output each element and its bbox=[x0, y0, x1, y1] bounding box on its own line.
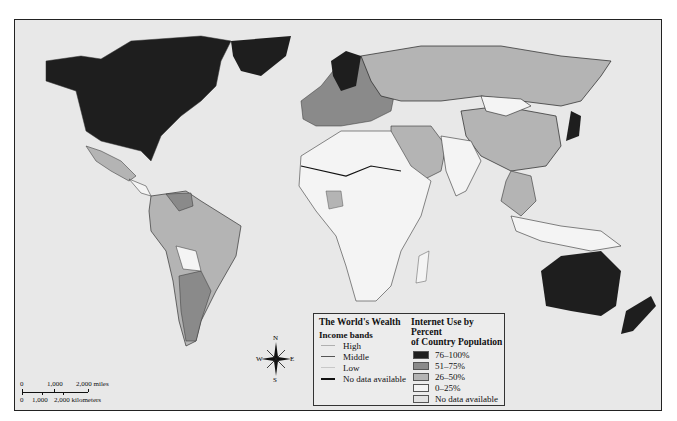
income-band-high: High bbox=[319, 340, 407, 351]
scale-miles-2000: 2,000 miles bbox=[76, 380, 109, 388]
japan-region bbox=[566, 111, 581, 141]
internet-band-label: 51–75% bbox=[435, 361, 465, 371]
internet-band-26-50: 26–50% bbox=[411, 371, 505, 382]
scale-miles-1000: 1,000 bbox=[47, 380, 63, 388]
scale-km-0: 0 bbox=[20, 396, 24, 404]
compass-s: S bbox=[273, 376, 277, 384]
new-zealand-region bbox=[621, 296, 656, 334]
income-band-label: No data available bbox=[343, 374, 406, 384]
central-america-region bbox=[129, 179, 151, 196]
internet-title-1: Internet Use by Percent bbox=[411, 317, 505, 337]
color-swatch bbox=[413, 373, 429, 381]
color-swatch bbox=[413, 395, 429, 403]
scale-km-1000: 1,000 bbox=[32, 396, 48, 404]
income-band-low: Low bbox=[319, 362, 407, 373]
color-swatch bbox=[413, 362, 429, 370]
internet-legend: Internet Use by Percent of Country Popul… bbox=[411, 317, 505, 404]
madagascar-region bbox=[416, 251, 429, 283]
internet-band-no-data: No data available bbox=[411, 393, 505, 404]
internet-title-2: of Country Population bbox=[411, 337, 505, 347]
internet-band-label: 26–50% bbox=[435, 372, 465, 382]
color-swatch bbox=[413, 384, 429, 392]
scale-km-2000: 2,000 kilometers bbox=[54, 396, 101, 404]
line-swatch-low bbox=[321, 367, 335, 368]
mexico-region bbox=[86, 146, 136, 181]
compass-n: N bbox=[273, 334, 278, 342]
income-band-label: Middle bbox=[343, 352, 369, 362]
income-band-label: Low bbox=[343, 363, 360, 373]
internet-band-label: 76–100% bbox=[435, 350, 470, 360]
internet-band-label: 0–25% bbox=[435, 383, 461, 393]
scale-line bbox=[22, 392, 88, 393]
income-legend: The World's Wealth Income bands High Mid… bbox=[319, 317, 407, 384]
scale-miles-0: 0 bbox=[20, 380, 24, 388]
internet-band-0-25: 0–25% bbox=[411, 382, 505, 393]
internet-band-51-75: 51–75% bbox=[411, 360, 505, 371]
greenland-region bbox=[231, 36, 291, 76]
income-band-no-data: No data available bbox=[319, 373, 407, 384]
internet-band-76-100: 76–100% bbox=[411, 349, 505, 360]
southeast-asia-region bbox=[501, 171, 536, 216]
scale-bar: 0 1,000 2,000 miles 0 1,000 2,000 kilome… bbox=[20, 380, 130, 408]
compass-star-icon bbox=[261, 342, 291, 376]
income-band-label: High bbox=[343, 341, 361, 351]
nigeria-region bbox=[326, 191, 343, 209]
color-swatch bbox=[413, 351, 429, 359]
internet-band-label: No data available bbox=[435, 394, 498, 404]
legend-title: The World's Wealth bbox=[319, 317, 407, 327]
north-america-region bbox=[46, 36, 231, 161]
income-band-middle: Middle bbox=[319, 351, 407, 362]
line-swatch-middle bbox=[321, 356, 335, 357]
compass-rose: N S W E bbox=[256, 334, 296, 384]
line-swatch-no-data bbox=[321, 378, 335, 380]
indonesia-region bbox=[511, 216, 621, 251]
australia-region bbox=[541, 251, 621, 316]
income-heading: Income bands bbox=[319, 330, 407, 340]
line-swatch-high bbox=[321, 345, 335, 346]
legend-box: The World's Wealth Income bands High Mid… bbox=[313, 313, 505, 406]
